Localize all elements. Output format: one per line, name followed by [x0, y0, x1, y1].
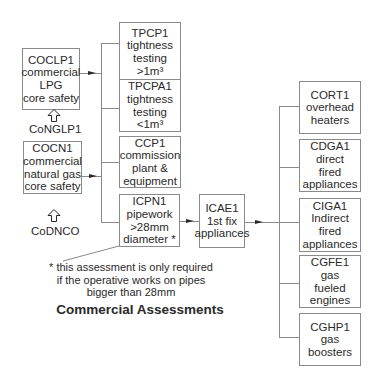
box-coclp1-line: commercial [22, 66, 81, 79]
footnote-line: if the operative works on pipes [36, 274, 226, 287]
box-cdga1-code: CDGA1 [310, 140, 350, 153]
footnote-line: bigger than 28mm [36, 286, 226, 299]
box-cgfe1-line: fueled [314, 282, 345, 295]
box-tpcp1-code: TPCP1 [131, 27, 168, 40]
box-cghp1: CGHP1 gas boosters [299, 313, 361, 366]
box-icpn1-code: ICPN1 [133, 195, 167, 208]
box-coclp1-line: core safety [23, 92, 79, 105]
box-cocn1-line: commercial [23, 155, 82, 168]
box-tpcpa1-line: <1m³ [137, 118, 164, 131]
box-ccp1-line: plant & [132, 162, 168, 175]
box-tpcp1: TPCP1 tightness testing >1m³ [119, 22, 181, 82]
box-cocn1-line: natural gas [24, 168, 81, 181]
box-cdga1-line: direct [316, 153, 344, 166]
box-cgfe1-code: CGFE1 [311, 256, 349, 269]
box-ciga1-line: Indirect [311, 212, 349, 225]
box-cocn1-line: core safety [24, 180, 80, 193]
box-icpn1-line: >28mm [130, 221, 169, 234]
box-icpn1: ICPN1 pipework >28mm diameter * [119, 194, 180, 247]
box-cort1: CORT1 overhead heaters [299, 81, 361, 134]
box-cocn1: COCN1 commercial natural gas core safety [23, 141, 82, 194]
box-ccp1: CCP1 commission plant & equipment [119, 136, 181, 188]
box-ccp1-line: commission [120, 149, 181, 162]
box-cdga1-line: fired [319, 166, 341, 179]
box-ciga1-code: CIGA1 [313, 200, 348, 213]
box-cghp1-line: boosters [308, 346, 352, 359]
box-icae1-line: 1st fix [207, 215, 237, 228]
box-tpcp1-line: >1m³ [137, 65, 164, 78]
box-icpn1-line: pipework [126, 208, 172, 221]
box-cort1-code: CORT1 [311, 89, 350, 102]
box-cdga1-line: appliances [303, 178, 358, 191]
box-ccp1-code: CCP1 [135, 137, 166, 150]
footnote-line: * this assessment is only required [36, 261, 226, 274]
box-cort1-line: overhead [306, 101, 354, 114]
box-ciga1: CIGA1 Indirect fired appliances [299, 198, 361, 252]
box-coclp1-line: LPG [39, 79, 62, 92]
box-tpcpa1-line: testing [133, 106, 167, 119]
box-icae1-line: appliances [195, 227, 250, 240]
footnote: * this assessment is only required if th… [36, 261, 226, 299]
box-ccp1-line: equipment [123, 175, 177, 188]
box-tpcpa1-line: tightness [127, 93, 173, 106]
box-cghp1-line: gas [321, 333, 340, 346]
box-icpn1-line: diameter * [123, 233, 175, 246]
box-ciga1-line: appliances [303, 238, 358, 251]
box-coclp1-code: COCLP1 [28, 54, 74, 67]
diagram-title: Commercial Assessments [40, 302, 240, 317]
box-tpcp1-line: tightness [127, 39, 173, 52]
box-cocn1-code: COCN1 [32, 142, 72, 155]
codnco-label: CoDNCO [31, 225, 80, 237]
box-cdga1: CDGA1 direct fired appliances [299, 139, 361, 192]
box-cgfe1-line: engines [310, 294, 350, 307]
box-cort1-line: heaters [311, 114, 349, 127]
box-cghp1-code: CGHP1 [310, 321, 350, 334]
box-tpcp1-line: testing [133, 52, 167, 65]
box-cgfe1-line: gas [321, 269, 340, 282]
up-arrow-icon [47, 109, 61, 122]
box-icae1-code: ICAE1 [205, 202, 238, 215]
box-coclp1: COCLP1 commercial LPG core safety [22, 48, 80, 110]
box-icae1: ICAE1 1st fix appliances [199, 194, 245, 248]
box-tpcpa1: TPCPA1 tightness testing <1m³ [119, 79, 181, 132]
box-cgfe1: CGFE1 gas fueled engines [299, 255, 361, 308]
box-ciga1-line: fired [319, 225, 341, 238]
up-arrow-icon [47, 209, 61, 222]
conglp1-label: CoNGLP1 [29, 123, 81, 135]
box-tpcpa1-code: TPCPA1 [128, 80, 172, 93]
